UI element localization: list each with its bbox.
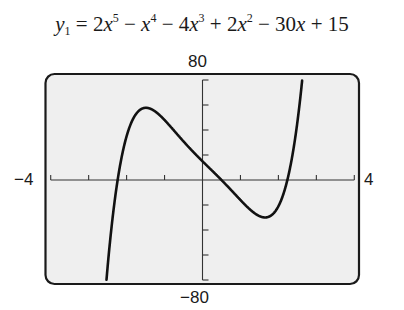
xmin-label: −4 — [14, 170, 33, 190]
xmax-label: 4 — [364, 170, 373, 190]
ymin-label: −80 — [180, 288, 209, 308]
ymax-label: 80 — [188, 52, 207, 72]
graph-screen — [0, 0, 404, 310]
